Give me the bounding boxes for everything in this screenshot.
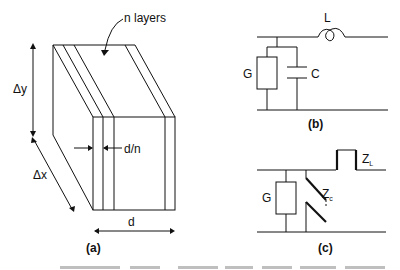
delta-y-label: Δy bbox=[13, 82, 27, 96]
caption-a: (a) bbox=[86, 241, 101, 255]
zc-label: Zc bbox=[322, 187, 333, 202]
zl-label: ZL bbox=[362, 152, 373, 167]
delta-x-label: Δx bbox=[33, 168, 47, 182]
figure-canvas: n layers Δy Δx d/n d (a) L G C (b) G Zc … bbox=[0, 0, 400, 270]
conductance-label-c: G bbox=[262, 191, 271, 205]
layered-slab bbox=[53, 45, 175, 210]
circuit-lumped bbox=[257, 28, 388, 110]
delta-y-arrow bbox=[30, 43, 36, 137]
capacitance-label: C bbox=[311, 67, 320, 81]
cropped-caption-line bbox=[0, 262, 400, 270]
caption-c: (c) bbox=[318, 241, 333, 255]
inductor-label: L bbox=[324, 11, 331, 25]
caption-b: (b) bbox=[308, 117, 323, 131]
layer-thickness-arrows bbox=[74, 145, 122, 151]
layer-thickness-label: d/n bbox=[124, 142, 141, 156]
thickness-label: d bbox=[128, 215, 135, 229]
n-layers-label: n layers bbox=[124, 11, 166, 25]
conductance-label-b: G bbox=[243, 67, 252, 81]
